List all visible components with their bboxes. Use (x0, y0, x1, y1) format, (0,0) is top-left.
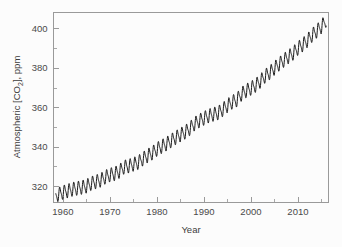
y-tick-label: 340 (32, 141, 48, 152)
x-tick-label: 1970 (99, 206, 120, 217)
y-tick-label: 380 (32, 62, 48, 73)
y-tick-label: 400 (32, 23, 48, 34)
co2-line-chart: 320340360380400 196019701980199020002010… (0, 0, 342, 247)
x-axis-title: Year (181, 224, 200, 235)
x-tick-label: 1990 (193, 206, 214, 217)
data-series-co2 (56, 18, 326, 202)
y-axis-title: Atmospheric [CO2], ppm (11, 56, 24, 159)
plot-frame (54, 13, 329, 203)
x-axis-ticks (64, 197, 322, 202)
x-tick-label: 2000 (240, 206, 261, 217)
figure-container: 320340360380400 196019701980199020002010… (0, 0, 342, 247)
x-axis-tick-labels: 196019701980199020002010 (52, 206, 308, 217)
svg-text:Atmospheric [CO2], ppm: Atmospheric [CO2], ppm (11, 56, 24, 159)
x-tick-label: 2010 (287, 206, 308, 217)
y-tick-label: 360 (32, 102, 48, 113)
x-tick-label: 1960 (52, 206, 73, 217)
y-axis-title-prefix: Atmospheric [CO (11, 86, 22, 158)
y-axis-tick-labels: 320340360380400 (32, 23, 48, 192)
y-axis-title-suffix: ], ppm (11, 56, 22, 82)
y-tick-label: 320 (32, 181, 48, 192)
y-axis-ticks (54, 29, 59, 187)
x-tick-label: 1980 (146, 206, 167, 217)
